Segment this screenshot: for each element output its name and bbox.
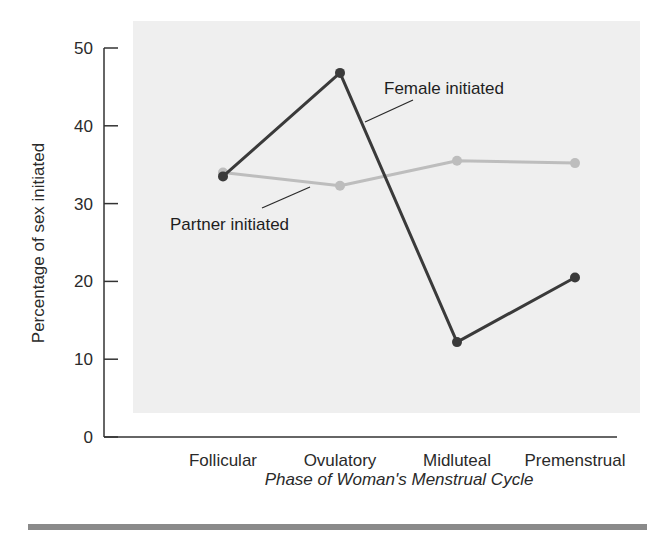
x-axis: FollicularOvulatoryMidlutealPremenstrual xyxy=(104,437,626,470)
data-point xyxy=(570,273,580,283)
x-axis-title: Phase of Woman's Menstrual Cycle xyxy=(265,470,534,489)
y-tick-label: 10 xyxy=(74,350,93,369)
data-point xyxy=(335,181,345,191)
line-chart: 01020304050 FollicularOvulatoryMidluteal… xyxy=(0,0,665,534)
y-tick-label: 30 xyxy=(74,195,93,214)
partner-initiated-label: Partner initiated xyxy=(170,215,289,234)
x-category-label: Ovulatory xyxy=(304,451,377,470)
female-initiated-label: Female initiated xyxy=(384,79,504,98)
x-category-label: Follicular xyxy=(189,451,257,470)
y-tick-label: 20 xyxy=(74,272,93,291)
x-category-label: Midluteal xyxy=(423,451,491,470)
data-point xyxy=(218,171,228,181)
data-point xyxy=(452,337,462,347)
x-category-label: Premenstrual xyxy=(524,451,625,470)
data-point xyxy=(570,158,580,168)
y-axis-title: Percentage of sex initiated xyxy=(29,143,48,343)
y-tick-label: 50 xyxy=(74,39,93,58)
data-point xyxy=(335,68,345,78)
y-tick-label: 40 xyxy=(74,117,93,136)
footer-rule xyxy=(28,524,647,530)
x-category-labels: FollicularOvulatoryMidlutealPremenstrual xyxy=(189,451,626,470)
y-ticks: 01020304050 xyxy=(74,39,118,447)
y-axis: 01020304050 xyxy=(74,39,118,447)
data-point xyxy=(452,156,462,166)
y-tick-label: 0 xyxy=(84,428,93,447)
